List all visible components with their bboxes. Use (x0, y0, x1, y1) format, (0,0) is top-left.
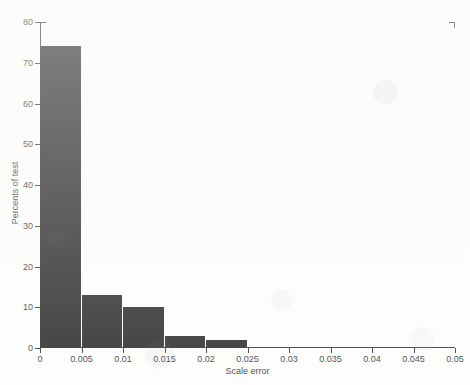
x-axis-tick-label: 0.045 (402, 355, 425, 364)
x-axis-tick-label: 0 (37, 355, 42, 364)
x-axis-tick (82, 348, 83, 353)
y-axis-tick (35, 144, 40, 145)
x-axis-tick-label: 0.04 (363, 355, 381, 364)
y-axis-title-text: Percents of test (10, 161, 20, 224)
y-axis-tick-label: 0 (28, 344, 33, 353)
x-axis-tick-label: 0.03 (280, 355, 298, 364)
y-axis-tick (35, 307, 40, 308)
histogram-bar (40, 46, 81, 348)
histogram-bar (165, 336, 206, 348)
x-axis-tick-label: 0.015 (153, 355, 176, 364)
x-axis-title: Scale error (40, 366, 455, 376)
histogram-figure: 01020304050607080 00.0050.010.0150.020.0… (0, 0, 470, 385)
y-axis-tick-label: 70 (23, 58, 33, 67)
top-left-corner-tick (40, 22, 46, 23)
y-axis-tick-label: 10 (23, 303, 33, 312)
y-axis-tick-label: 40 (23, 181, 33, 190)
plot-area: 01020304050607080 00.0050.010.0150.020.0… (40, 22, 455, 348)
y-axis-tick (35, 267, 40, 268)
x-axis-tick (165, 348, 166, 353)
x-axis-tick (414, 348, 415, 353)
x-axis-tick (40, 348, 41, 353)
y-axis-tick-label: 30 (23, 221, 33, 230)
x-axis-tick-label: 0.005 (70, 355, 93, 364)
y-axis-title: Percents of test (8, 0, 22, 385)
right-top-corner-tick (454, 22, 455, 28)
y-axis-tick (35, 226, 40, 227)
x-axis-tick (372, 348, 373, 353)
y-axis-tick (35, 104, 40, 105)
x-axis-tick (248, 348, 249, 353)
x-axis-tick-label: 0.01 (114, 355, 132, 364)
x-axis-tick-label: 0.02 (197, 355, 215, 364)
x-axis-tick-label: 0.05 (446, 355, 464, 364)
histogram-bar (206, 340, 247, 348)
y-axis-tick-label: 60 (23, 99, 33, 108)
y-axis-tick (35, 63, 40, 64)
histogram-bar (82, 295, 123, 348)
y-axis-tick-label: 80 (23, 18, 33, 27)
x-axis-tick (331, 348, 332, 353)
x-axis-tick (123, 348, 124, 353)
y-axis-tick (35, 22, 40, 23)
x-axis-tick (289, 348, 290, 353)
y-axis-tick-label: 50 (23, 140, 33, 149)
x-axis-tick-label: 0.035 (319, 355, 342, 364)
y-axis-tick (35, 185, 40, 186)
x-axis-tick (206, 348, 207, 353)
y-axis-tick-label: 20 (23, 262, 33, 271)
x-axis-tick-label: 0.025 (236, 355, 259, 364)
x-axis-tick (455, 348, 456, 353)
histogram-bar (123, 307, 164, 348)
